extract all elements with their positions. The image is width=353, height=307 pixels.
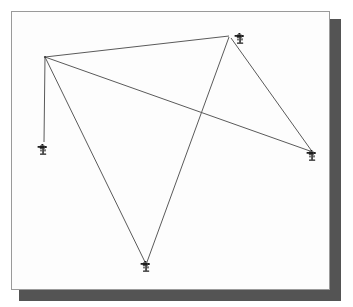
camera-tripod-icon[interactable] <box>235 33 244 44</box>
junction-node-icon[interactable] <box>44 56 46 58</box>
camera-tripod-icon[interactable] <box>141 261 150 272</box>
edge-hub-bottom <box>45 57 145 262</box>
edge-top-right <box>231 38 311 150</box>
edge-hub-right <box>45 57 310 151</box>
edge-hub-top <box>45 36 229 57</box>
camera-tripod-icon[interactable] <box>38 144 47 155</box>
network-diagram <box>0 0 353 307</box>
camera-tripod-icon[interactable] <box>307 150 316 161</box>
edge-top-bottom <box>147 37 229 262</box>
edge-hub-left <box>44 57 45 142</box>
edges-group <box>44 36 311 262</box>
screenshot-stage <box>0 0 353 307</box>
